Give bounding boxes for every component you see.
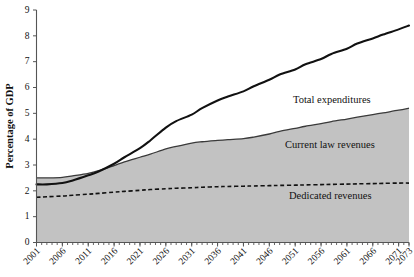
y-axis-tick-label: 5 <box>25 108 30 118</box>
y-axis <box>33 10 37 243</box>
series-annotation-label: Current law revenues <box>285 139 375 150</box>
y-axis-title: Percentage of GDP <box>4 83 15 169</box>
x-axis-tick-label: 2026 <box>151 246 172 267</box>
x-axis-tick-label: 2066 <box>358 246 379 267</box>
y-axis-tick-label: 6 <box>25 82 30 92</box>
y-axis-tick-label: 9 <box>25 5 30 15</box>
x-axis-tick-label: 2041 <box>228 246 249 267</box>
y-axis-tick-label: 8 <box>25 31 30 41</box>
y-axis-tick-label: 7 <box>25 56 30 66</box>
x-axis-tick-labels: 2001200620112016202120262031203620412046… <box>21 246 414 267</box>
y-axis-tick-label: 3 <box>25 160 30 170</box>
y-axis-tick-label: 1 <box>25 211 30 221</box>
x-axis-tick-label: 2016 <box>99 246 120 267</box>
x-axis-tick-label: 2006 <box>47 246 68 267</box>
y-axis-tick-label: 2 <box>25 186 30 196</box>
y-axis-tick-label: 0 <box>25 237 30 247</box>
y-axis-tick-labels: 0123456789 <box>25 5 30 248</box>
x-axis-tick-label: 2061 <box>332 246 353 267</box>
x-axis-tick-label: 2031 <box>177 246 198 267</box>
x-axis <box>36 243 409 247</box>
series-annotation-label: Dedicated revenues <box>289 190 372 201</box>
y-axis-tick-label: 4 <box>25 134 30 144</box>
x-axis-tick-label: 2036 <box>202 246 223 267</box>
chart-container: Percentage of GDP 0123456789 20012006201… <box>0 0 414 277</box>
percentage-of-gdp-area-chart: Percentage of GDP 0123456789 20012006201… <box>0 0 414 277</box>
x-axis-tick-label: 2021 <box>125 246 146 267</box>
x-axis-tick-label: 2051 <box>280 246 301 267</box>
x-axis-tick-label: 2011 <box>73 246 93 266</box>
x-axis-tick-label: 2046 <box>254 246 275 267</box>
series-annotation-label: Total expenditures <box>293 94 371 105</box>
x-axis-tick-label: 2001 <box>21 246 42 267</box>
x-axis-tick-label: 2056 <box>306 246 327 267</box>
